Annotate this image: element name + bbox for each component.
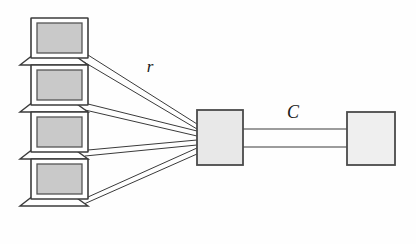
laptop-computer-icon — [20, 159, 88, 206]
client-laptop-2 — [20, 65, 88, 112]
diagram-canvas: r C — [0, 0, 416, 244]
laptop-computer-icon — [20, 65, 88, 112]
server-box — [347, 112, 395, 165]
laptop-screen — [37, 23, 82, 53]
client-laptop-4 — [20, 159, 88, 206]
network-diagram-figure: r C — [0, 0, 416, 244]
link-capacity-label: C — [287, 102, 300, 122]
laptop-screen — [37, 164, 82, 194]
client-laptop-3 — [20, 112, 88, 159]
laptop-screen — [37, 70, 82, 100]
client-laptop-1 — [20, 18, 88, 65]
access-rate-label: r — [147, 57, 154, 76]
router-box — [197, 110, 243, 165]
laptop-screen — [37, 117, 82, 147]
laptop-computer-icon — [20, 112, 88, 159]
laptop-computer-icon — [20, 18, 88, 65]
